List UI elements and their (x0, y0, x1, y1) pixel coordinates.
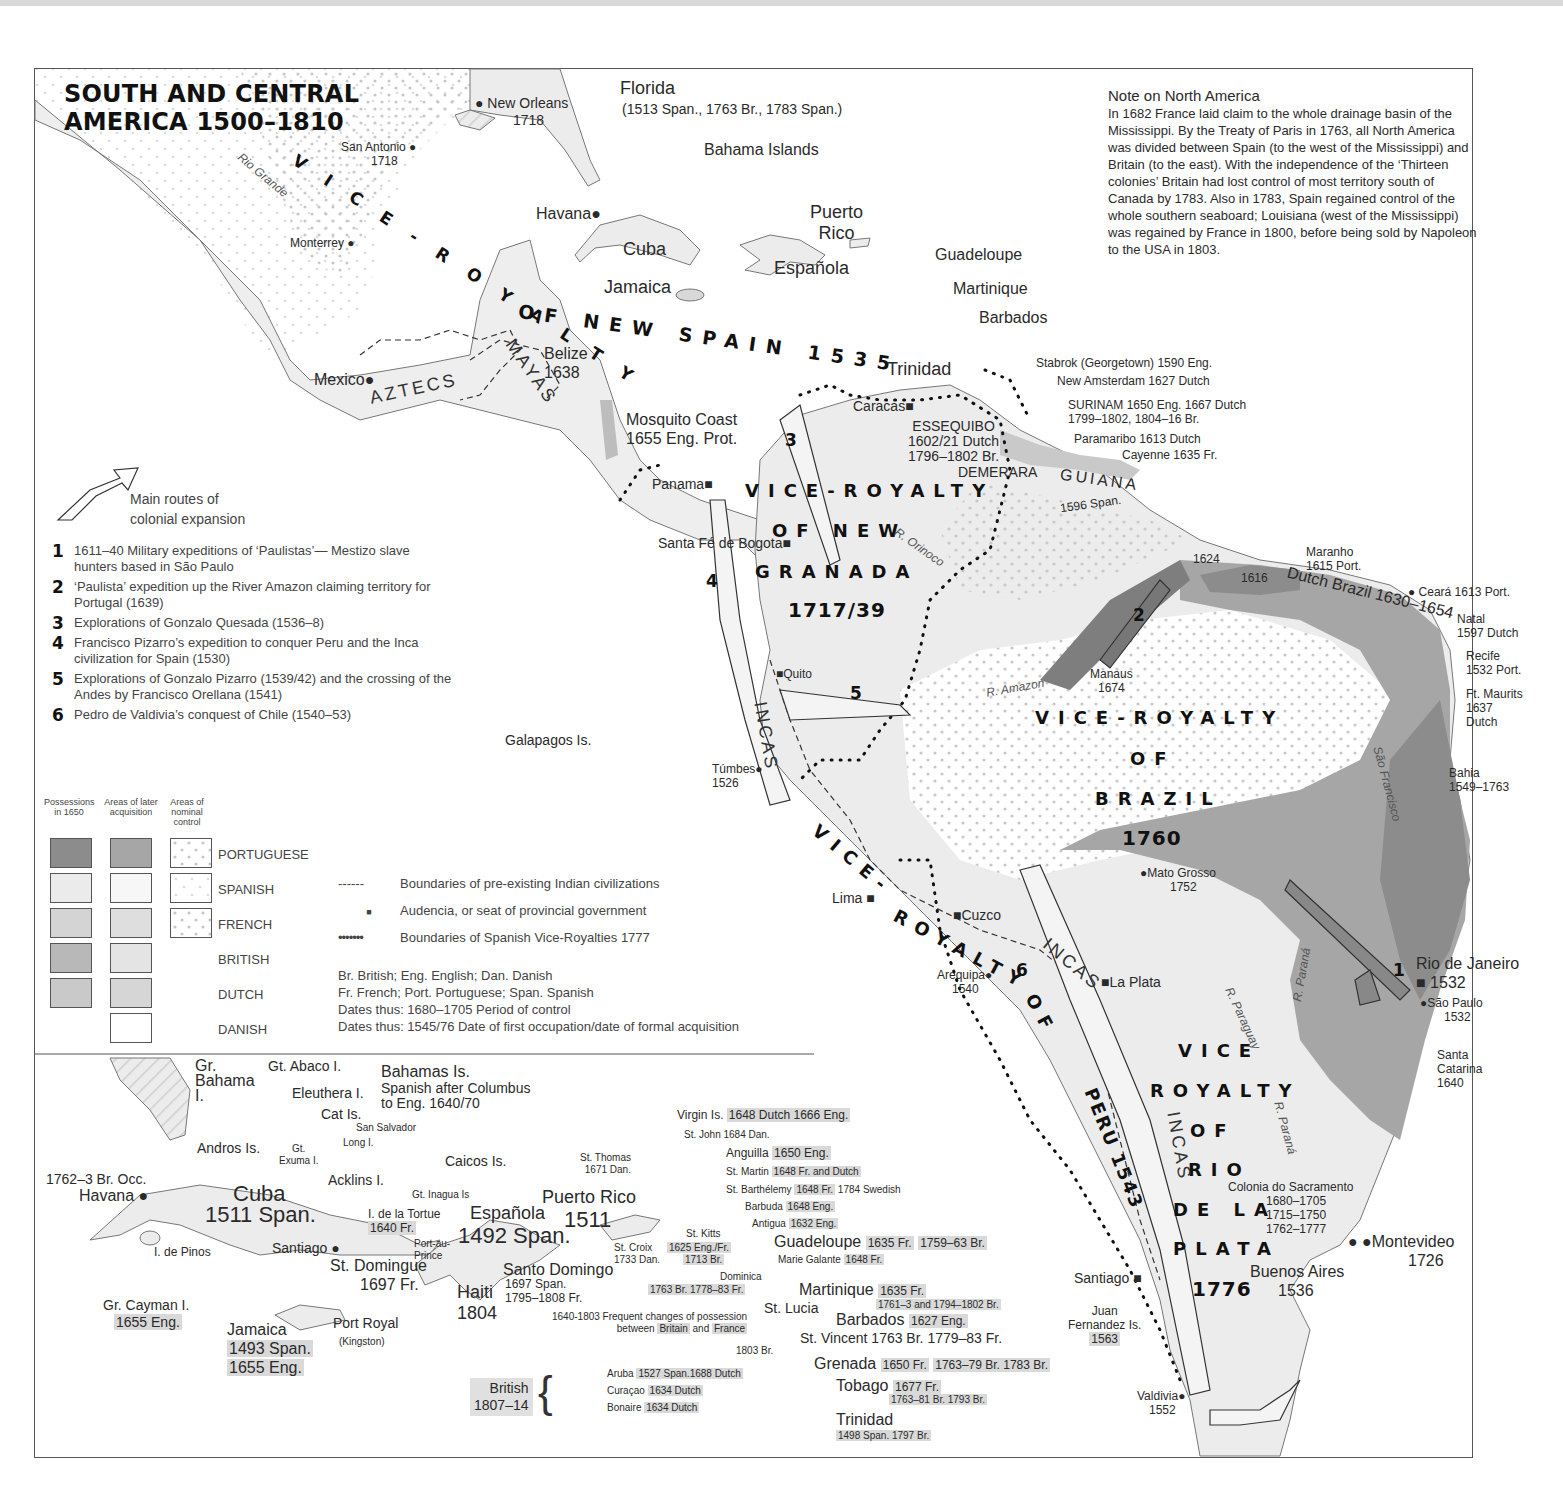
inset-tobago-d2: 1763–81 Br. 1793 Br. (889, 1394, 987, 1406)
place-date-1: 1637 (1466, 701, 1493, 715)
route-number-3: 3 (785, 430, 797, 450)
place-date-1: 1680–1705 (1228, 1194, 1326, 1208)
place-name: Mexico (314, 371, 365, 388)
place-date: 1634 Dutch (644, 1402, 699, 1413)
place-barbados: Barbados (979, 308, 1048, 327)
place-date: 1635 Fr. (866, 1236, 914, 1250)
route-text: Pedro de Valdivia’s conquest of Chile (1… (74, 707, 351, 723)
place-date: 1648 Fr. and Dutch (772, 1166, 861, 1177)
route-text: Francisco Pizarro’s expedition to conque… (74, 635, 452, 667)
place-florida-dates: (1513 Span., 1763 Br., 1783 Span.) (622, 101, 842, 118)
vr-brazil-4: 1760 (1122, 826, 1182, 850)
place-name: Antigua (752, 1218, 786, 1229)
vr-new-granada-2: OF NEW (772, 520, 907, 541)
place-bahia: Bahia1549–1763 (1449, 766, 1509, 794)
route-number-1: 1 (1393, 960, 1405, 980)
inset-british-occupation: British1807–14 (470, 1378, 533, 1416)
route-item: 6Pedro de Valdivia’s conquest of Chile (… (52, 707, 452, 723)
place-date: 1671 Dan. (585, 1164, 631, 1175)
place-cuba: Cuba (623, 239, 666, 260)
route-item: 3Explorations of Gonzalo Quesada (1536–8… (52, 615, 452, 631)
place-line-2: 1799–1802, 1804–16 Br. (1068, 412, 1199, 426)
inset-gt-inagua: Gt. Inagua Is (412, 1189, 469, 1201)
brace-icon: { (538, 1370, 553, 1414)
place-new-amsterdam: New Amsterdam 1627 Dutch (1057, 374, 1210, 388)
place-name: Ceará 1613 Port. (1419, 585, 1510, 599)
place-name: Port Royal (333, 1315, 398, 1331)
place-name: St. Barthélemy (726, 1184, 792, 1195)
route-item: 11611–40 Military expeditions of ‘Paulis… (52, 543, 452, 575)
place-martinique: Martinique (953, 279, 1028, 298)
swatch-portuguese-nominal (170, 838, 212, 868)
inset-cayman-date: 1655 Eng. (114, 1314, 182, 1331)
place-date: 1634 Dutch (648, 1385, 703, 1396)
place-name: ESSEQUIBO (912, 418, 994, 434)
place-date: 1804 (457, 1303, 497, 1323)
inset-gr-bahama: Gr.BahamaI. (195, 1058, 255, 1103)
place-rio-de-janeiro: Rio de Janeiro■ 1532 (1416, 954, 1519, 992)
place-date: 1655 Eng. (114, 1314, 182, 1330)
place-name: Grenada (814, 1355, 876, 1372)
place-paramaribo: Paramaribo 1613 Dutch (1074, 432, 1201, 446)
place-bahama-islands: Bahama Islands (704, 140, 819, 159)
place-date: 1597 Dutch (1457, 626, 1518, 640)
inset-santo-domingo-dates: 1697 Span.1795–1808 Fr. (505, 1277, 582, 1305)
place-santiago: Santiago ■ (1074, 1270, 1142, 1287)
place-date: 1648 Fr. (794, 1184, 835, 1195)
place-1624: 1624 (1193, 552, 1220, 566)
inset-haiti: Haiti1804 (457, 1282, 497, 1324)
legend-col-2: Areas of later acquisition (104, 797, 158, 817)
place-name: I. de la Tortue (368, 1207, 441, 1221)
note-france: France (712, 1323, 747, 1334)
place-date-2: 1763–81 Br. 1793 Br. (889, 1394, 987, 1405)
route-text: Explorations of Gonzalo Pizarro (1539/42… (74, 671, 452, 703)
place-name: St. Croix (614, 1242, 652, 1253)
place-name: Quito (783, 667, 812, 681)
inset-espanola-date: 1492 Span. (458, 1224, 571, 1248)
place-date: 1763 Br. 1778–83 Fr. (648, 1284, 745, 1295)
inset-tortue: I. de la Tortue1640 Fr. (368, 1207, 441, 1235)
place-florida: Florida (620, 78, 675, 99)
place-mosquito-coast: Mosquito Coast1655 Eng. Prot. (626, 410, 737, 448)
place-name: Túmbes (712, 762, 755, 776)
place-date: 1638 (544, 364, 580, 381)
swatch-portuguese-1650 (50, 838, 92, 868)
note-north-america: Note on North America In 1682 France lai… (1108, 86, 1478, 258)
abbr-line: Dates thus: 1680–1705 Period of control (338, 1001, 739, 1018)
place-quito: ■Quito (776, 667, 812, 681)
note-body: In 1682 France laid claim to the whole d… (1108, 105, 1478, 258)
legend-col-3: Areas of nominal control (162, 797, 212, 827)
place-line-3: I. (195, 1087, 204, 1104)
place-espanola: Española (774, 258, 849, 279)
legend-arrow-line-2: colonial expansion (130, 511, 245, 527)
legend-symbol-civilization-boundary: ------Boundaries of pre-existing Indian … (338, 876, 659, 891)
place-name: La Plata (1109, 974, 1160, 990)
place-sao-paulo: ●São Paulo1532 (1420, 996, 1483, 1024)
note-heading: Note on North America (1108, 86, 1478, 105)
swatch-french-nominal (170, 908, 212, 938)
legend-dutch: DUTCH (218, 987, 264, 1002)
inset-bahamas: Bahamas Is. (381, 1062, 470, 1081)
place-date-3: 1762–1777 (1228, 1222, 1326, 1236)
swatch-spanish-later (110, 873, 152, 903)
place-date: 1650 Eng. (772, 1146, 831, 1160)
place-name: Caracas (853, 398, 905, 414)
note-line-1: 1640-1803 Frequent changes of possession (552, 1311, 747, 1322)
place-name: Aruba (607, 1368, 634, 1379)
place-date-1: 1625 Eng./Fr. (667, 1242, 731, 1253)
routes-legend: 11611–40 Military expeditions of ‘Paulis… (52, 543, 452, 727)
place-date-2: Dutch (1466, 715, 1497, 729)
route-item: 4Francisco Pizarro’s expedition to conqu… (52, 635, 452, 667)
symbol-text: Boundaries of pre-existing Indian civili… (400, 876, 659, 891)
place-date: 1733 Dan. (614, 1254, 660, 1265)
place-name: Bahia (1449, 766, 1480, 780)
place-name: Martinique (799, 1281, 874, 1298)
inset-cat: Cat Is. (321, 1106, 361, 1123)
title-line-2: AMERICA 1500–1810 (64, 108, 359, 136)
place-santa-catarina: SantaCatarina1640 (1437, 1048, 1482, 1090)
swatch-british-later (110, 943, 152, 973)
vr-new-granada-1: VICE-ROYALTY (745, 480, 994, 501)
place-name: Colonia do Sacramento (1228, 1180, 1353, 1194)
inset-andros: Andros Is. (197, 1140, 260, 1157)
place-line-1: Port-au- (414, 1238, 450, 1249)
